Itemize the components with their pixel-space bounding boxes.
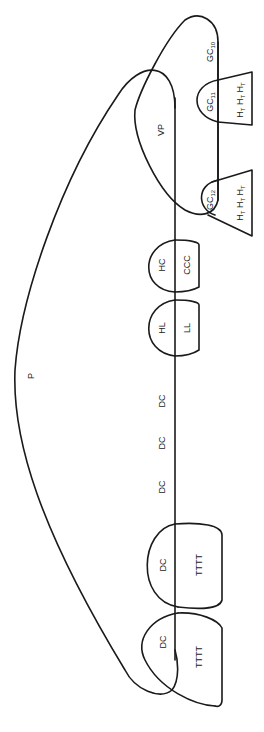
label-dc-3: DC [157, 480, 167, 493]
label-p: P [26, 373, 36, 379]
label-ht-group-2: HT HT HT [235, 185, 246, 221]
label-vp: VP [156, 124, 166, 136]
label-tttt-2: TTTT [194, 646, 204, 668]
label-gc12: GC12 [205, 189, 216, 210]
label-gc10: GC10 [205, 41, 216, 62]
label-gc11: GC11 [205, 91, 216, 111]
label-dc-1: DC [157, 394, 167, 407]
label-ccc: CCC [182, 255, 192, 275]
label-ll: LL [182, 323, 192, 333]
dc-dome-2 [142, 613, 215, 706]
label-tttt-1: TTTT [194, 554, 204, 576]
label-dc-4: DC [158, 558, 168, 571]
p-arc [15, 70, 178, 694]
label-ht-group-1: HT HT HT [235, 82, 246, 118]
diagram-canvas: P VP GC10 GC11 GC12 HT HT HT HT HT HT HC… [0, 0, 264, 732]
label-hl: HL [157, 322, 167, 334]
label-dc-5: DC [158, 635, 168, 648]
label-hc: HC [157, 258, 167, 271]
label-dc-2: DC [157, 436, 167, 449]
